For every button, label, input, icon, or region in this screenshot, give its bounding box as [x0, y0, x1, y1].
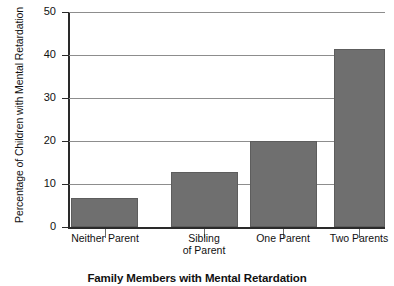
y-tick-label-50: 50 — [16, 5, 56, 17]
x-axis-line — [68, 227, 385, 229]
plot-area: 50 40 30 20 10 0 — [68, 12, 385, 227]
y-tick-mark-50 — [62, 12, 69, 13]
chart-title: Family Members with Mental Retardation — [0, 272, 394, 284]
bar-neither-parent — [71, 198, 138, 227]
y-tick-label-30: 30 — [16, 91, 56, 103]
y-axis-title: Percentage of Children with Mental Retar… — [13, 1, 25, 229]
y-tick-label-0: 0 — [16, 220, 56, 232]
y-tick-mark-0 — [62, 227, 69, 228]
gridline-50 — [68, 12, 385, 13]
y-tick-label-40: 40 — [16, 48, 56, 60]
y-tick-mark-20 — [62, 141, 69, 142]
y-tick-label-10: 10 — [16, 177, 56, 189]
x-category-label-two-parents: Two Parents — [314, 233, 394, 245]
y-tick-label-20: 20 — [16, 134, 56, 146]
bar-chart: Percentage of Children with Mental Retar… — [0, 0, 394, 286]
y-axis-line — [68, 12, 70, 227]
y-tick-mark-40 — [62, 55, 69, 56]
y-tick-mark-30 — [62, 98, 69, 99]
x-category-label-neither-parent: Neither Parent — [60, 233, 150, 245]
bar-sibling-of-parent — [171, 172, 238, 227]
y-tick-mark-10 — [62, 184, 69, 185]
bar-two-parents — [334, 49, 385, 227]
x-category-label-sibling-of-parent: Sibling of Parent — [159, 233, 249, 256]
bar-one-parent — [250, 141, 317, 227]
